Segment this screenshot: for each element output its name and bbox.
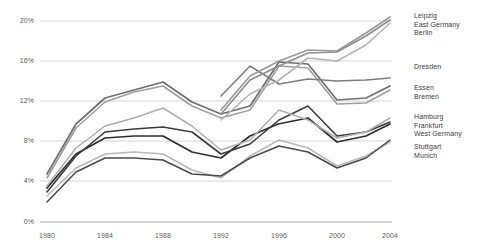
ytick-label-8: 8%	[8, 137, 34, 144]
legend-label-frankfurt: Frankfurt	[414, 122, 462, 131]
legend-group-4: Hamburg Frankfurt West Germany	[414, 113, 462, 139]
legend-label-west-germany: West Germany	[414, 130, 462, 139]
xtick-label-2000: 2000	[317, 232, 357, 239]
legend-group-5: Stuttgart Munich	[414, 143, 441, 160]
ytick-label-0: 0%	[8, 218, 34, 225]
legend-label-leipzig: Leipzig	[414, 12, 460, 21]
legend-label-stuttgart: Stuttgart	[414, 143, 441, 152]
series-line-hamburg	[47, 108, 390, 186]
xtick-label-1992: 1992	[201, 232, 241, 239]
ytick-label-20: 20%	[8, 17, 34, 24]
legend-label-hamburg: Hamburg	[414, 113, 462, 122]
legend-group-1: Leipzig East Germany Berlin	[414, 12, 460, 38]
xtick-label-1988: 1988	[143, 232, 183, 239]
legend-label-dresden: Dresden	[414, 63, 441, 72]
xtick-label-1996: 1996	[259, 232, 299, 239]
line-chart: 20% 16% 12% 8% 4% 0% 1980 1984 1988 1992…	[0, 0, 492, 252]
legend-label-east-germany: East Germany	[414, 21, 460, 30]
ytick-label-12: 12%	[8, 97, 34, 104]
series-paths	[47, 17, 390, 202]
legend-label-essen: Essen	[414, 84, 439, 93]
xtick-label-1984: 1984	[85, 232, 125, 239]
ytick-label-16: 16%	[8, 57, 34, 64]
series-line-frankfurt	[47, 106, 390, 192]
xtick-label-2004: 2004	[370, 232, 410, 239]
xtick-label-1980: 1980	[27, 232, 67, 239]
ytick-label-4: 4%	[8, 177, 34, 184]
series-line-stuttgart	[47, 140, 390, 202]
legend-label-munich: Munich	[414, 152, 441, 161]
legend-group-3: Essen Bremen	[414, 84, 439, 101]
legend-group-2: Dresden	[414, 63, 441, 72]
legend-label-berlin: Berlin	[414, 29, 460, 38]
legend-label-bremen: Bremen	[414, 93, 439, 102]
